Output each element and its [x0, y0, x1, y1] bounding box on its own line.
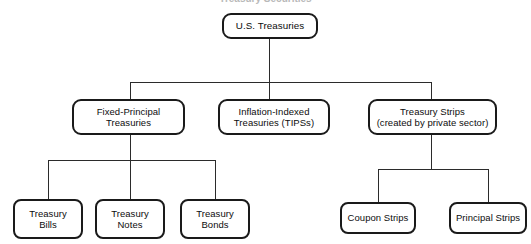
node-label: Fixed-Principal Treasuries [94, 106, 164, 129]
connector-drop-treasury-bonds [215, 160, 216, 199]
connector-drop-treasury-notes [130, 160, 131, 199]
treasury-hierarchy-diagram: Treasury Securities U.S. Treasuries Fixe… [0, 0, 531, 244]
connector-treasury-strips-stem [431, 135, 432, 170]
node-label: Coupon Strips [345, 212, 412, 224]
connector-level2-bus [130, 82, 431, 83]
node-us-treasuries[interactable]: U.S. Treasuries [222, 13, 318, 39]
connector-drop-treasury-strips [431, 82, 432, 99]
connector-fixed-principal-stem [130, 135, 131, 161]
connector-drop-treasury-bills [48, 160, 49, 199]
node-label: Treasury Bills [26, 208, 70, 231]
node-label: Treasury Notes [108, 208, 152, 231]
connector-root-stem [269, 38, 270, 82]
connector-drop-inflation-indexed [269, 82, 270, 99]
connector-level3-left-bus [48, 160, 215, 161]
diagram-title-cropped: Treasury Securities [0, 0, 531, 5]
node-treasury-strips[interactable]: Treasury Strips (created by private sect… [368, 99, 497, 135]
connector-drop-principal-strips [488, 169, 489, 202]
node-label: Treasury Strips (created by private sect… [374, 106, 492, 129]
connector-level3-right-bus [378, 169, 488, 170]
node-treasury-bonds[interactable]: Treasury Bonds [180, 199, 250, 239]
diagram-title-text: Treasury Securities [0, 0, 531, 4]
node-treasury-notes[interactable]: Treasury Notes [95, 199, 165, 239]
node-label: U.S. Treasuries [233, 20, 307, 32]
node-coupon-strips[interactable]: Coupon Strips [340, 202, 416, 234]
node-treasury-bills[interactable]: Treasury Bills [13, 199, 83, 239]
node-label: Principal Strips [453, 212, 523, 224]
node-fixed-principal-treasuries[interactable]: Fixed-Principal Treasuries [72, 99, 185, 135]
node-principal-strips[interactable]: Principal Strips [449, 202, 527, 234]
node-inflation-indexed-treasuries[interactable]: Inflation-Indexed Treasuries (TIPSs) [218, 99, 330, 135]
node-label: Treasury Bonds [193, 208, 237, 231]
connector-drop-fixed-principal [130, 82, 131, 99]
node-label: Inflation-Indexed Treasuries (TIPSs) [231, 106, 317, 129]
connector-drop-coupon-strips [378, 169, 379, 202]
